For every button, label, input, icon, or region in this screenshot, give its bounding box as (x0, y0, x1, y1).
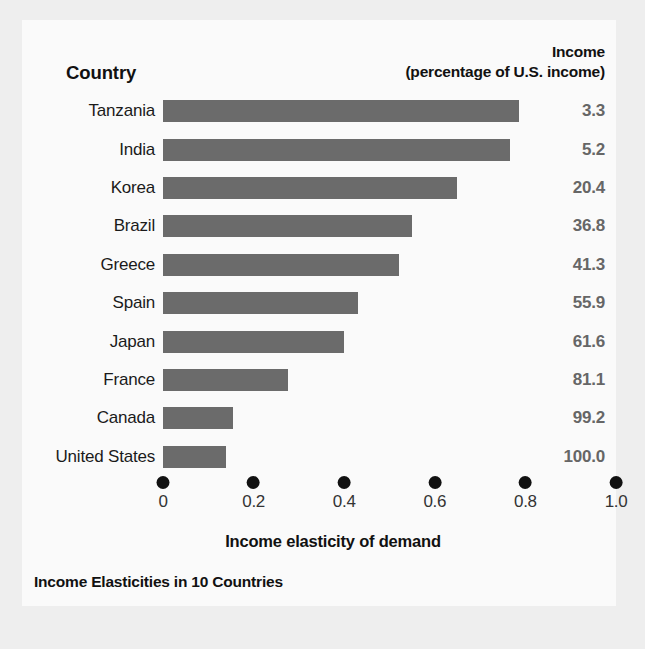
axis-tick-label: 0.6 (423, 492, 446, 512)
bar (163, 407, 233, 429)
bar-row: Brazil36.8 (22, 207, 616, 245)
bar (163, 177, 457, 199)
bar (163, 331, 344, 353)
bar (163, 139, 510, 161)
income-column-header: Income (percentage of U.S. income) (405, 42, 605, 82)
income-value: 81.1 (525, 370, 605, 390)
bar (163, 215, 412, 237)
income-value: 20.4 (525, 178, 605, 198)
income-value: 100.0 (525, 447, 605, 467)
country-label: Japan (22, 332, 155, 352)
country-label: Korea (22, 178, 155, 198)
axis-tick: 0 (157, 476, 170, 512)
bar (163, 254, 399, 276)
country-label: United States (22, 447, 155, 467)
country-label: Greece (22, 255, 155, 275)
figure-caption: Income Elasticities in 10 Countries (34, 573, 283, 591)
bar-row: Japan61.6 (22, 322, 616, 360)
country-label: Canada (22, 408, 155, 428)
bar-chart-rows: Tanzania3.3India5.2Korea20.4Brazil36.8Gr… (22, 92, 616, 476)
axis-tick-label: 0.8 (514, 492, 537, 512)
income-value: 55.9 (525, 293, 605, 313)
income-value: 61.6 (525, 332, 605, 352)
country-label: Spain (22, 293, 155, 313)
bar-row: Korea20.4 (22, 169, 616, 207)
x-axis-title: Income elasticity of demand (163, 532, 503, 551)
figure-panel: Country Income (percentage of U.S. incom… (22, 20, 616, 606)
bar (163, 369, 288, 391)
bar-row: France81.1 (22, 361, 616, 399)
axis-tick: 0.6 (423, 476, 446, 512)
income-value: 36.8 (525, 216, 605, 236)
country-label: France (22, 370, 155, 390)
bar-row: Tanzania3.3 (22, 92, 616, 130)
income-value: 99.2 (525, 408, 605, 428)
bar-row: Canada99.2 (22, 399, 616, 437)
tick-dot-icon (338, 476, 351, 489)
axis-tick-label: 1.0 (605, 492, 628, 512)
axis-tick: 0.8 (514, 476, 537, 512)
tick-dot-icon (157, 476, 170, 489)
tick-dot-icon (247, 476, 260, 489)
table-header: Country Income (percentage of U.S. incom… (22, 42, 616, 88)
bar (163, 292, 358, 314)
bar (163, 100, 519, 122)
x-axis: 00.20.40.60.81.0 (163, 476, 616, 536)
axis-tick: 0.4 (333, 476, 356, 512)
bar-row: United States100.0 (22, 438, 616, 476)
axis-tick: 1.0 (605, 476, 628, 512)
country-label: Brazil (22, 216, 155, 236)
country-label: India (22, 140, 155, 160)
bar-row: Greece41.3 (22, 246, 616, 284)
country-column-header: Country (66, 62, 136, 84)
tick-dot-icon (519, 476, 532, 489)
income-value: 5.2 (525, 140, 605, 160)
bar-row: Spain55.9 (22, 284, 616, 322)
bar (163, 446, 226, 468)
tick-dot-icon (428, 476, 441, 489)
income-column-header-line1: Income (405, 42, 605, 62)
axis-tick-label: 0.2 (242, 492, 265, 512)
income-column-header-line2: (percentage of U.S. income) (405, 62, 605, 82)
tick-dot-icon (609, 476, 622, 489)
country-label: Tanzania (22, 101, 155, 121)
axis-tick-label: 0 (157, 492, 170, 512)
bar-row: India5.2 (22, 130, 616, 168)
income-value: 41.3 (525, 255, 605, 275)
axis-tick: 0.2 (242, 476, 265, 512)
income-value: 3.3 (525, 101, 605, 121)
axis-tick-label: 0.4 (333, 492, 356, 512)
